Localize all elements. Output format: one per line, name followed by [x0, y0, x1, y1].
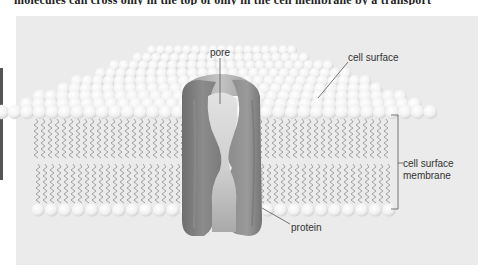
- membrane-bracket: [391, 115, 403, 209]
- cell-surface-membrane-label-line2: membrane: [403, 170, 451, 181]
- cell-surface-membrane-label-line1: cell surface: [403, 158, 454, 169]
- pore-label: pore: [210, 47, 230, 58]
- protein-label: protein: [291, 222, 322, 233]
- membrane-diagram: [0, 0, 494, 280]
- channel-protein: [182, 74, 262, 236]
- cell-surface-label: cell surface: [348, 52, 399, 63]
